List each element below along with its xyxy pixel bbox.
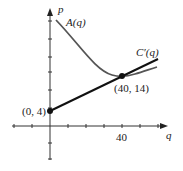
point-0-4-label: (0, 4) [22,105,46,118]
x-axis [12,123,168,129]
q-axis-label: q [166,129,172,141]
average-cost-label: A(q) [65,16,86,29]
y-axis [47,8,53,160]
point-40-14-label: (40, 14) [114,82,149,95]
marginal-cost-label: C′(q) [136,46,159,59]
point-0-4 [47,108,53,114]
y-axis-arrow-icon [47,8,53,16]
point-40-14 [119,73,125,79]
chart: p q A(q) C′(q) 40 (0, 4) (40, 14) [0,0,183,171]
p-axis-label: p [57,3,64,15]
x-tick-40: 40 [116,131,128,143]
